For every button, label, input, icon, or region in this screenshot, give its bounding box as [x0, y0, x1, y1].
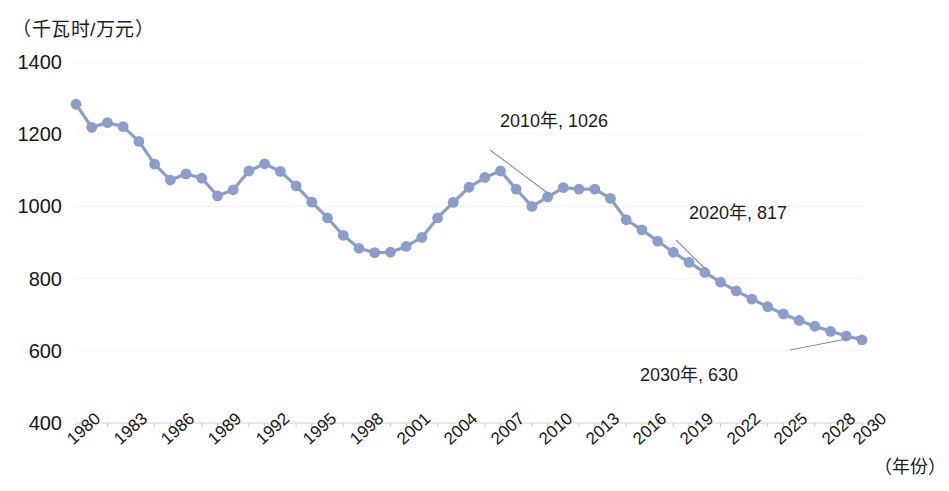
x-axis-unit-label: （年份）: [874, 452, 946, 478]
data-point-marker: [574, 184, 585, 195]
data-point-marker: [196, 173, 207, 184]
data-point-marker: [401, 241, 412, 252]
data-point-marker: [118, 121, 129, 132]
data-point-marker: [715, 277, 726, 288]
y-axis-tick-label: 1000: [6, 196, 62, 216]
line-chart: （千瓦时/万元） 400600800100012001400 198019831…: [0, 0, 949, 491]
data-point-marker: [291, 180, 302, 191]
data-point-marker: [448, 197, 459, 208]
data-point-marker: [71, 99, 82, 110]
data-point-marker: [747, 294, 758, 305]
data-point-marker: [668, 247, 679, 258]
data-point-marker: [133, 136, 144, 147]
data-point-marker: [495, 166, 506, 177]
data-point-marker: [558, 182, 569, 193]
data-point-marker: [338, 230, 349, 241]
data-point-marker: [354, 243, 365, 254]
data-point-marker: [652, 236, 663, 247]
data-point-marker: [684, 257, 695, 268]
data-point-marker: [86, 122, 97, 133]
data-point-marker: [416, 232, 427, 243]
data-point-marker: [778, 309, 789, 320]
data-point-marker: [825, 326, 836, 337]
data-point-marker: [794, 315, 805, 326]
chart-annotation: 2030年, 630: [640, 366, 738, 384]
data-point-marker: [432, 213, 443, 224]
data-point-marker: [479, 172, 490, 183]
data-point-marker: [149, 159, 160, 170]
data-point-marker: [464, 182, 475, 193]
y-axis-tick-label: 800: [6, 269, 62, 289]
data-point-marker: [102, 117, 113, 128]
data-point-marker: [306, 197, 317, 208]
data-point-marker: [542, 192, 553, 203]
data-point-marker: [212, 191, 223, 202]
data-point-marker: [385, 247, 396, 258]
data-point-marker: [244, 166, 255, 177]
data-point-marker: [275, 166, 286, 177]
data-point-marker: [699, 267, 710, 278]
data-point-marker: [165, 175, 176, 186]
data-point-marker: [526, 201, 537, 212]
data-point-marker: [369, 247, 380, 258]
data-point-marker: [181, 169, 192, 180]
data-point-marker: [637, 224, 648, 235]
y-axis-tick-labels: 400600800100012001400: [0, 0, 62, 491]
chart-annotation: 2020年, 817: [689, 204, 787, 222]
data-point-marker: [605, 193, 616, 204]
data-point-marker: [589, 184, 600, 195]
data-point-marker: [809, 321, 820, 332]
y-axis-tick-label: 1200: [6, 124, 62, 144]
y-axis-tick-label: 600: [6, 341, 62, 361]
data-point-marker: [762, 301, 773, 312]
data-point-marker: [731, 285, 742, 296]
chart-annotation: 2010年, 1026: [500, 112, 608, 130]
data-point-marker: [511, 184, 522, 195]
annotation-leader-line: [790, 336, 862, 350]
y-axis-tick-label: 1400: [6, 52, 62, 72]
data-point-marker: [259, 158, 270, 169]
data-point-marker: [322, 213, 333, 224]
data-point-marker: [621, 214, 632, 225]
data-point-marker: [228, 184, 239, 195]
y-axis-tick-label: 400: [6, 413, 62, 433]
